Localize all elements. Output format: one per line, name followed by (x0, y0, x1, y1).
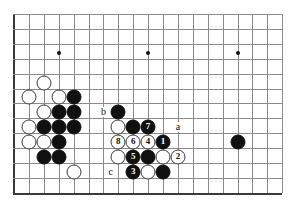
stone-white[interactable] (111, 120, 126, 135)
stone-move-number: 8 (116, 137, 121, 146)
grid-line-horizontal (13, 74, 282, 75)
stone-move-number: 6 (131, 137, 136, 146)
stone-white[interactable] (111, 150, 126, 165)
stone-move-2[interactable]: 2 (170, 150, 185, 165)
stone-black[interactable] (51, 120, 66, 135)
stone-white[interactable] (156, 150, 171, 165)
stone-black[interactable] (51, 150, 66, 165)
stone-move-8[interactable]: 8 (111, 135, 126, 150)
stone-black[interactable] (66, 90, 81, 105)
grid-line-vertical (282, 14, 283, 193)
stone-black[interactable] (51, 135, 66, 150)
stone-black[interactable] (66, 120, 81, 135)
point-label-c: c (108, 167, 114, 177)
stone-black[interactable] (36, 120, 51, 135)
stone-black[interactable] (36, 150, 51, 165)
star-point (236, 51, 240, 55)
go-diagram-root: 78641523abc (0, 0, 293, 204)
stone-black[interactable] (51, 105, 66, 120)
stone-black[interactable] (141, 150, 156, 165)
stone-black[interactable] (66, 105, 81, 120)
stone-white[interactable] (36, 75, 51, 90)
stone-move-1[interactable]: 1 (156, 135, 171, 150)
stone-move-number: 3 (131, 167, 136, 176)
stone-move-6[interactable]: 6 (126, 135, 141, 150)
stone-move-4[interactable]: 4 (141, 135, 156, 150)
go-board[interactable]: 78641523abc (0, 0, 293, 204)
stone-move-5[interactable]: 5 (126, 150, 141, 165)
stone-white[interactable] (36, 105, 51, 120)
stone-white[interactable] (21, 120, 36, 135)
stone-black[interactable] (126, 120, 141, 135)
stone-white[interactable] (21, 135, 36, 150)
stone-black[interactable] (230, 135, 245, 150)
stone-move-number: 7 (146, 122, 151, 131)
stone-black[interactable] (111, 105, 126, 120)
point-label-a: a (175, 122, 181, 132)
stone-move-7[interactable]: 7 (141, 120, 156, 135)
stone-move-3[interactable]: 3 (126, 164, 141, 179)
grid-line-horizontal (13, 44, 282, 45)
grid-line-horizontal (13, 59, 282, 60)
stone-move-number: 2 (176, 152, 181, 161)
stone-white[interactable] (21, 90, 36, 105)
stone-move-number: 5 (131, 152, 136, 161)
stone-move-number: 1 (161, 137, 166, 146)
grid-line-horizontal (13, 14, 282, 15)
stone-white[interactable] (141, 164, 156, 179)
star-point (146, 51, 150, 55)
stone-black[interactable] (156, 164, 171, 179)
grid-line-horizontal (13, 89, 282, 90)
grid-line-horizontal (13, 193, 282, 195)
stone-white[interactable] (36, 135, 51, 150)
stone-white[interactable] (51, 90, 66, 105)
grid-line-horizontal (13, 29, 282, 30)
star-point (57, 51, 61, 55)
stone-white[interactable] (66, 164, 81, 179)
stone-move-number: 4 (146, 137, 151, 146)
point-label-b: b (100, 107, 107, 117)
